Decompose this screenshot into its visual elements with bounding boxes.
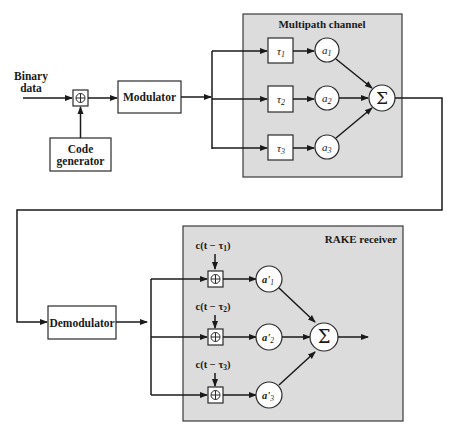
demodulator-label: Demodulator xyxy=(49,317,114,329)
rake-receiver-title: RAKE receiver xyxy=(325,233,397,245)
rake-receiver-diagram: Binary data Modulator Code generator Mul… xyxy=(0,0,458,433)
multipath-channel: Multipath channel τ1 a1 τ2 a2 τ3 a3 Σ xyxy=(212,14,402,177)
code-generator-label-line1: Code xyxy=(68,143,94,155)
code-generator-label-line2: generator xyxy=(57,155,105,168)
transmitter: Binary data Modulator Code generator xyxy=(14,51,212,171)
multipath-channel-title: Multipath channel xyxy=(278,18,365,30)
sigma-icon: Σ xyxy=(318,326,331,347)
modulator-label: Modulator xyxy=(123,91,176,103)
receiver: Demodulator RAKE receiver c(t − τ1) a'1 … xyxy=(48,226,403,421)
sigma-icon: Σ xyxy=(376,88,388,108)
binary-data-label-line2: data xyxy=(20,82,42,94)
